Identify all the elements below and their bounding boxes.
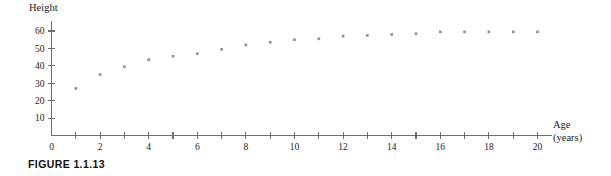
data-point — [147, 58, 150, 61]
y-tick-label: 50 — [35, 44, 45, 54]
y-tick-label: 30 — [35, 79, 45, 89]
x-tick-label: 2 — [98, 142, 103, 152]
figure-caption: FIGURE 1.1.13 — [28, 158, 105, 170]
y-axis: 102030405060 — [35, 21, 55, 136]
data-point — [123, 65, 126, 68]
figure-container: Height 102030405060 02468101214161820 Ag… — [0, 0, 611, 176]
data-point — [269, 41, 272, 44]
x-tick-label: 8 — [244, 142, 249, 152]
data-point — [463, 31, 466, 34]
data-point — [439, 31, 442, 34]
x-axis: 02468101214161820 — [49, 132, 552, 152]
data-point — [415, 32, 418, 35]
x-axis-title: Age (years) — [553, 118, 582, 144]
y-tick-label: 20 — [35, 96, 45, 106]
x-tick-label: 4 — [146, 142, 151, 152]
x-tick-label: 16 — [436, 142, 446, 152]
x-tick-label: 6 — [195, 142, 200, 152]
data-point — [293, 38, 296, 41]
data-point — [318, 38, 321, 41]
data-point — [196, 52, 199, 55]
y-tick-label: 40 — [35, 61, 45, 71]
data-point — [390, 33, 393, 36]
x-tick-label: 20 — [533, 142, 543, 152]
data-point — [172, 55, 175, 58]
data-point — [75, 87, 78, 90]
x-tick-label: 10 — [290, 142, 300, 152]
x-tick-label: 14 — [387, 142, 397, 152]
data-point — [488, 31, 491, 34]
y-tick-label: 10 — [35, 113, 45, 123]
x-axis-title-unit: (years) — [553, 131, 582, 144]
data-point — [342, 35, 345, 38]
x-axis-title-main: Age — [553, 119, 571, 130]
data-point — [536, 31, 539, 34]
data-point — [245, 44, 248, 47]
y-tick-label: 60 — [35, 26, 45, 36]
x-tick-label: 12 — [338, 142, 348, 152]
x-tick-label: 18 — [484, 142, 494, 152]
data-point — [99, 73, 102, 76]
data-point — [220, 48, 223, 51]
data-point — [366, 34, 369, 37]
data-points — [75, 31, 539, 90]
x-tick-label: 0 — [49, 142, 54, 152]
data-point — [512, 31, 515, 34]
scatter-plot: 102030405060 02468101214161820 — [0, 0, 611, 176]
